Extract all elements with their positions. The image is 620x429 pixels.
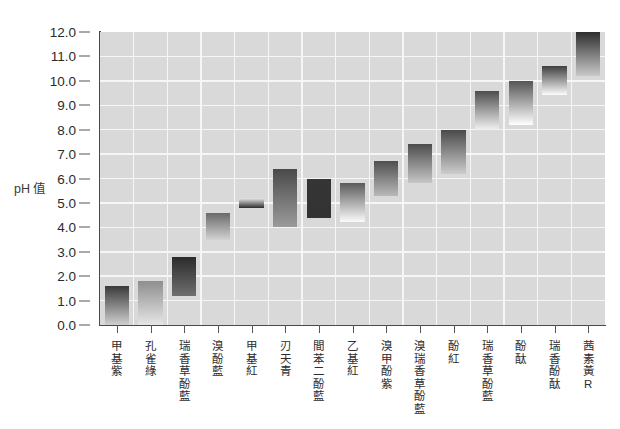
x-tick-label-9: 溴瑞香草酚藍 — [413, 340, 427, 416]
x-tick-mark — [487, 325, 488, 333]
x-tick-mark — [285, 325, 286, 333]
x-tick-label-3: 溴酚藍 — [211, 340, 225, 378]
x-tick-label-4: 甲基紅 — [245, 340, 259, 378]
x-tick-mark — [184, 325, 185, 333]
x-tick-mark — [588, 325, 589, 333]
x-tick-mark — [521, 325, 522, 333]
x-tick-label-13: 瑞香酚酞 — [548, 340, 562, 390]
x-tick-label-7: 乙基紅 — [346, 340, 360, 378]
x-tick-mark — [117, 325, 118, 333]
x-tick-label-12: 酚酞 — [514, 340, 528, 365]
x-tick-mark — [151, 325, 152, 333]
x-tick-label-6: 間苯二酚藍 — [312, 340, 326, 403]
x-tick-mark — [252, 325, 253, 333]
x-tick-label-11: 瑞香草酚藍 — [480, 340, 494, 403]
x-axis-tick-group: 甲基紫孔雀綠瑞香草酚藍溴酚藍甲基紅刃天青間苯二酚藍乙基紅溴甲酚紫溴瑞香草酚藍酚紅… — [0, 0, 620, 429]
x-tick-label-5: 刃天青 — [278, 340, 292, 378]
x-tick-mark — [353, 325, 354, 333]
ph-indicator-range-chart: pH 值 0.01.02.03.04.05.06.07.08.09.010.01… — [0, 0, 620, 429]
x-tick-mark — [218, 325, 219, 333]
x-tick-label-8: 溴甲酚紫 — [379, 340, 393, 390]
x-tick-label-10: 酚紅 — [447, 340, 461, 365]
x-tick-mark — [555, 325, 556, 333]
x-tick-label-2: 瑞香草酚藍 — [177, 340, 191, 403]
x-tick-label-14: 茜素黃R — [581, 340, 595, 390]
x-tick-label-0: 甲基紫 — [110, 340, 124, 378]
x-tick-label-1: 孔雀綠 — [144, 340, 158, 378]
x-tick-mark — [386, 325, 387, 333]
x-tick-mark — [454, 325, 455, 333]
x-tick-mark — [420, 325, 421, 333]
x-tick-mark — [319, 325, 320, 333]
